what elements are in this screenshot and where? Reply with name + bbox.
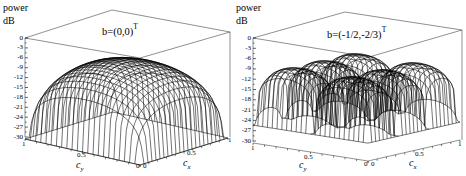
z-tick-label: -15	[5, 84, 23, 91]
z-tick-label: -30	[233, 138, 251, 145]
z-tick-label: -9	[5, 64, 23, 71]
z-tick-label: 0	[233, 35, 251, 42]
z-tick-label: -24	[5, 114, 23, 121]
z-tick-label: -3	[5, 44, 23, 51]
z-axis-label-unit: dB	[236, 16, 248, 26]
z-tick-label: -15	[233, 86, 251, 93]
z-axis-label-power: power	[3, 3, 28, 13]
y-tick-1: 1	[251, 145, 255, 152]
xlabel-sub: x	[413, 163, 416, 171]
y-tick-0: 0	[136, 163, 140, 170]
x-tick-0: 0	[371, 161, 375, 168]
ylabel-sub: y	[80, 165, 83, 173]
x-axis-label: cx	[183, 157, 191, 171]
z-tick-label: -18	[233, 96, 251, 103]
z-tick-label: -21	[5, 104, 23, 111]
y-axis-label: cy	[76, 159, 84, 173]
z-axis-label-unit: dB	[3, 16, 15, 26]
y-tick-0.5: 0.5	[77, 152, 86, 159]
z-tick-label: -9	[233, 65, 251, 72]
title-superscript: T	[133, 22, 138, 31]
z-tick-label: 0	[5, 35, 23, 42]
z-tick-label: -24	[233, 117, 251, 124]
y-tick-1: 1	[22, 141, 26, 148]
z-tick-label: -21	[233, 107, 251, 114]
z-tick-label: -6	[5, 54, 23, 61]
chart-right: power dB b=(-1/2,-2/3)T 0-3-6-9-12-15-18…	[233, 0, 466, 176]
x-tick-0.5: 0.5	[187, 150, 196, 157]
z-tick-label: -18	[5, 94, 23, 101]
xlabel-sub: x	[187, 163, 190, 171]
x-axis-label: cx	[409, 157, 417, 171]
y-tick-0: 0	[364, 161, 368, 168]
chart-title-right: b=(-1/2,-2/3)T	[327, 26, 386, 40]
ylabel-sub: y	[303, 165, 306, 173]
x-tick-1: 1	[458, 141, 462, 148]
z-tick-label: -3	[233, 45, 251, 52]
x-tick-1: 1	[228, 137, 232, 144]
y-axis-label: cy	[299, 159, 307, 173]
chart-left: power dB b=(0,0)T 0-3-6-9-12-15-18-21-24…	[0, 0, 233, 176]
z-tick-label: -6	[233, 55, 251, 62]
z-axis-label-power: power	[236, 3, 261, 13]
z-tick-label: -12	[5, 74, 23, 81]
z-tick-label: -12	[233, 76, 251, 83]
z-tick-label: -30	[5, 134, 23, 141]
x-tick-0: 0	[143, 163, 147, 170]
title-superscript: T	[382, 25, 387, 34]
chart-title-left: b=(0,0)T	[102, 23, 138, 37]
title-text: b=(-1/2,-2/3)	[327, 29, 382, 40]
title-text: b=(0,0)	[102, 26, 133, 37]
z-tick-label: -27	[233, 127, 251, 134]
z-tick-label: -27	[5, 124, 23, 131]
